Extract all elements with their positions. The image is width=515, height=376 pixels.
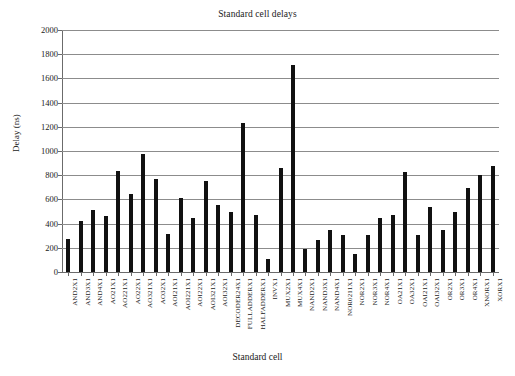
y-tick-label: 1800 bbox=[0, 49, 58, 59]
x-tick-mark bbox=[468, 273, 469, 276]
y-tick-label: 0 bbox=[0, 267, 58, 277]
bar bbox=[229, 212, 233, 272]
x-tick-label: AOI22X1 bbox=[196, 278, 204, 307]
x-tick-label: OR4X1 bbox=[471, 278, 479, 300]
y-tick-label: 1600 bbox=[0, 73, 58, 83]
x-tick-label: XORX1 bbox=[496, 278, 504, 302]
x-tick-label: AO32X1 bbox=[159, 278, 167, 304]
gridline bbox=[62, 30, 499, 31]
x-tick-label: NAND3X1 bbox=[321, 278, 329, 311]
x-tick-mark bbox=[343, 273, 344, 276]
bar bbox=[191, 218, 195, 272]
x-tick-label: AOI21X1 bbox=[171, 278, 179, 307]
bar bbox=[353, 254, 357, 272]
x-tick-mark bbox=[293, 273, 294, 276]
x-tick-label: OA21X1 bbox=[396, 278, 404, 304]
x-tick-mark bbox=[231, 273, 232, 276]
x-tick-label: NOR2X1 bbox=[358, 278, 366, 305]
bar bbox=[478, 175, 482, 272]
x-tick-mark bbox=[443, 273, 444, 276]
x-tick-mark bbox=[218, 273, 219, 276]
x-tick-label: OR3X1 bbox=[458, 278, 466, 300]
bar bbox=[303, 249, 307, 272]
x-tick-label: NAND2X1 bbox=[308, 278, 316, 311]
plot-area bbox=[62, 30, 499, 272]
chart-figure: Standard cell delays Delay (ns) 02004006… bbox=[0, 0, 515, 376]
x-tick-label: NOR0211X1 bbox=[346, 278, 354, 316]
x-tick-label: MUX4X1 bbox=[296, 278, 304, 307]
x-tick-label: AOI32X1 bbox=[221, 278, 229, 307]
x-tick-mark bbox=[368, 273, 369, 276]
bar bbox=[216, 205, 220, 272]
bar bbox=[241, 123, 245, 272]
bar bbox=[179, 198, 183, 272]
x-tick-label: DECODER24X1 bbox=[234, 278, 242, 328]
x-tick-label: AOI321X1 bbox=[209, 278, 217, 310]
x-tick-label: NOR3X1 bbox=[371, 278, 379, 305]
y-tick-label: 1200 bbox=[0, 122, 58, 132]
bar bbox=[266, 259, 270, 272]
bar bbox=[79, 221, 83, 272]
y-tick-label: 2000 bbox=[0, 25, 58, 35]
x-tick-mark bbox=[131, 273, 132, 276]
x-tick-mark bbox=[168, 273, 169, 276]
bar bbox=[453, 212, 457, 272]
bar bbox=[366, 235, 370, 272]
x-tick-mark bbox=[318, 273, 319, 276]
bar bbox=[391, 215, 395, 272]
bar bbox=[116, 171, 120, 272]
x-tick-label: INVX1 bbox=[271, 278, 279, 300]
x-tick-mark bbox=[206, 273, 207, 276]
bar bbox=[491, 166, 495, 272]
x-tick-label: AOI221X1 bbox=[184, 278, 192, 310]
x-tick-mark bbox=[256, 273, 257, 276]
bar bbox=[141, 154, 145, 272]
gridline bbox=[62, 151, 499, 152]
x-tick-mark bbox=[106, 273, 107, 276]
bar bbox=[291, 65, 295, 272]
x-tick-label: AO22X1 bbox=[134, 278, 142, 304]
bar bbox=[403, 172, 407, 272]
bar bbox=[254, 215, 258, 272]
y-tick-label: 200 bbox=[0, 243, 58, 253]
x-tick-mark bbox=[405, 273, 406, 276]
y-tick-label: 800 bbox=[0, 170, 58, 180]
bar bbox=[204, 181, 208, 272]
x-tick-mark bbox=[330, 273, 331, 276]
bar bbox=[316, 240, 320, 272]
x-tick-mark bbox=[68, 273, 69, 276]
x-tick-label: NAND4X1 bbox=[333, 278, 341, 311]
y-tick-label: 600 bbox=[0, 194, 58, 204]
x-tick-label: OAI21X1 bbox=[421, 278, 429, 307]
x-tick-label: XNORX1 bbox=[483, 278, 491, 307]
x-tick-mark bbox=[305, 273, 306, 276]
x-tick-label: FULLADDERX1 bbox=[246, 278, 254, 329]
x-tick-label: AND3X1 bbox=[84, 278, 92, 306]
x-tick-mark bbox=[243, 273, 244, 276]
x-tick-label: NOR4X1 bbox=[383, 278, 391, 305]
chart-title: Standard cell delays bbox=[0, 9, 515, 19]
x-tick-mark bbox=[493, 273, 494, 276]
x-tick-mark bbox=[81, 273, 82, 276]
x-tick-mark bbox=[181, 273, 182, 276]
bar bbox=[104, 216, 108, 273]
x-tick-label: AO21X1 bbox=[109, 278, 117, 304]
bar bbox=[91, 210, 95, 272]
gridline bbox=[62, 127, 499, 128]
gridline bbox=[62, 54, 499, 55]
x-tick-label: AND4X1 bbox=[96, 278, 104, 306]
bar bbox=[154, 179, 158, 272]
x-tick-label: OA32X1 bbox=[408, 278, 416, 304]
gridline bbox=[62, 78, 499, 79]
bar bbox=[66, 239, 70, 272]
bar bbox=[428, 207, 432, 272]
bar bbox=[129, 194, 133, 272]
x-tick-label: HALFADDERX1 bbox=[259, 278, 267, 330]
x-tick-label: OR2X1 bbox=[446, 278, 454, 300]
y-tick-label: 1400 bbox=[0, 98, 58, 108]
x-tick-mark bbox=[393, 273, 394, 276]
y-tick-label: 1000 bbox=[0, 146, 58, 156]
x-tick-mark bbox=[455, 273, 456, 276]
gridline bbox=[62, 103, 499, 104]
x-tick-mark bbox=[430, 273, 431, 276]
